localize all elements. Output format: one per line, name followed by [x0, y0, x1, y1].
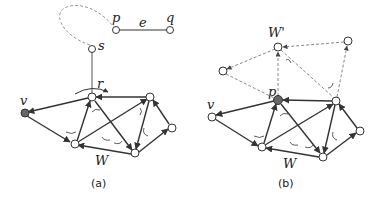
label-e: e [139, 15, 147, 30]
node-b-right [332, 97, 340, 105]
edges-Wprime [226, 42, 347, 98]
label-v: v [20, 93, 28, 108]
diagram: p q e s r v W (a) [0, 0, 382, 204]
node-Wprime-top [274, 43, 282, 51]
node-Wprime-right [344, 37, 352, 45]
label-p: p [112, 10, 121, 25]
label-W: W [95, 153, 110, 168]
label-q: q [166, 10, 174, 25]
node-a-far-right [168, 124, 176, 132]
panel-a: p q e s r v W (a) [20, 5, 176, 190]
node-p [113, 27, 120, 34]
node-v-b [208, 113, 216, 121]
edges-W-a [27, 97, 169, 154]
label-s: s [98, 38, 105, 53]
node-a-top-right [146, 93, 154, 101]
node-r [88, 93, 96, 101]
label-W-b: W [283, 156, 298, 171]
label-p-b: p [268, 84, 277, 99]
node-b-far-right [356, 127, 364, 135]
caption-b: (b) [278, 177, 294, 190]
node-v [21, 109, 29, 117]
caption-a: (a) [91, 177, 106, 190]
node-Wprime-left [219, 67, 227, 75]
label-r: r [97, 76, 104, 91]
node-a-bottom-left [71, 140, 79, 148]
dashed-path-s-p [60, 5, 114, 45]
node-a-bottom [131, 149, 139, 157]
label-v-b: v [207, 97, 215, 112]
label-Wprime: W' [268, 25, 285, 40]
edges-W-b [215, 100, 357, 157]
node-b-bottom [319, 153, 327, 161]
node-q [167, 27, 174, 34]
node-b-bottom-left [258, 143, 266, 151]
panel-b: W' p v W (b) [207, 25, 364, 190]
node-s [89, 46, 96, 53]
